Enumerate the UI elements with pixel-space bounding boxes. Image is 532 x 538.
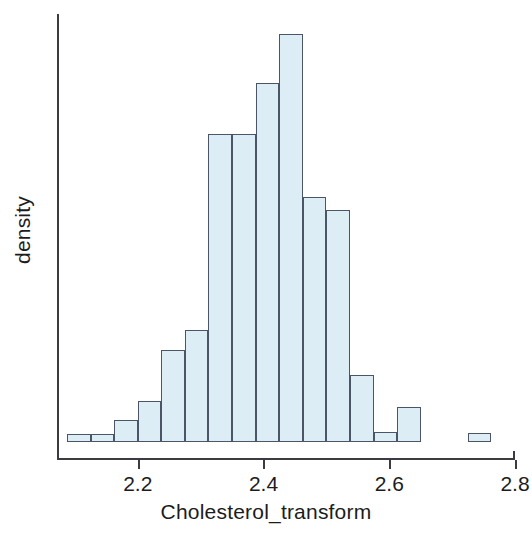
histogram-bar bbox=[397, 407, 421, 442]
y-axis-label: density bbox=[11, 196, 35, 264]
histogram-bar bbox=[138, 401, 162, 442]
x-axis-right-cap bbox=[513, 451, 515, 459]
histogram-bar bbox=[232, 134, 256, 442]
histogram-bar bbox=[67, 434, 91, 442]
x-axis-tick bbox=[263, 460, 265, 469]
histogram-bar bbox=[303, 197, 327, 442]
histogram-bar bbox=[256, 83, 280, 442]
x-axis-tick-label: 2.8 bbox=[500, 472, 529, 496]
x-axis-tick-label: 2.4 bbox=[249, 472, 278, 496]
x-axis-tick bbox=[515, 460, 517, 469]
x-axis-tick-label: 2.2 bbox=[123, 472, 152, 496]
x-axis-tick-label: 2.6 bbox=[375, 472, 404, 496]
x-axis-left-cap bbox=[57, 451, 59, 459]
x-axis-line bbox=[57, 458, 515, 460]
histogram-bar bbox=[374, 432, 398, 442]
histogram-bar bbox=[161, 350, 185, 442]
histogram-bar bbox=[279, 34, 303, 442]
x-axis-tick bbox=[389, 460, 391, 469]
y-axis-label-container: density bbox=[0, 0, 46, 460]
histogram-bars bbox=[57, 14, 515, 442]
histogram-bar bbox=[91, 434, 115, 442]
histogram-bar bbox=[326, 210, 350, 442]
histogram-bar bbox=[114, 420, 138, 442]
histogram-bar bbox=[468, 433, 492, 442]
histogram-bar bbox=[185, 330, 209, 442]
plot-area: 2.22.42.62.8 bbox=[57, 14, 515, 460]
x-axis-label: Cholesterol_transform bbox=[0, 500, 532, 524]
histogram-bar bbox=[350, 375, 374, 442]
histogram-bar bbox=[208, 134, 232, 442]
x-axis-tick bbox=[138, 460, 140, 469]
histogram-figure: density 2.22.42.62.8 Cholesterol_transfo… bbox=[0, 0, 532, 538]
